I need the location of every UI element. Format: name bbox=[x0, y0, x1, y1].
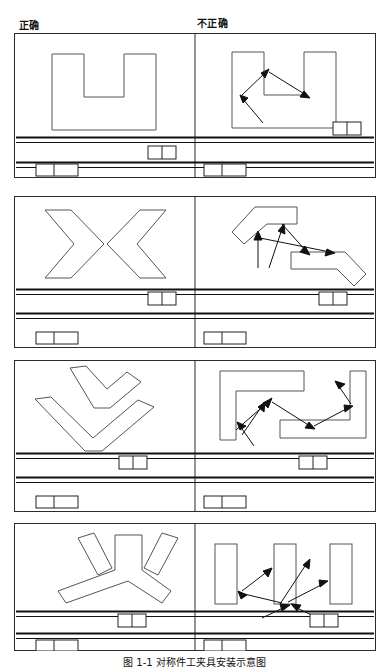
panel-1 bbox=[14, 33, 376, 178]
panel-4-drawing bbox=[14, 523, 376, 651]
panel-3-drawing bbox=[14, 360, 376, 512]
panel-1-drawing bbox=[14, 33, 376, 178]
column-header-correct: 正确 bbox=[19, 20, 40, 31]
panel-2-drawing bbox=[14, 196, 376, 348]
panel-2 bbox=[14, 196, 376, 348]
panel-4 bbox=[14, 523, 376, 651]
column-header-incorrect: 不正确 bbox=[197, 18, 228, 29]
panel-3 bbox=[14, 360, 376, 512]
figure-caption: 图 1-1 对称件工夹具安装示意图 bbox=[0, 656, 389, 670]
figure-root: 正确 不正确 bbox=[0, 0, 389, 672]
